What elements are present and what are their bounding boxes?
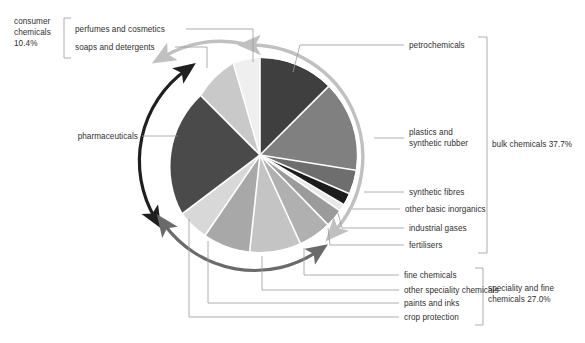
speciality-line1: speciality and fine: [488, 283, 554, 294]
label-perfumes-and-cosmetics: perfumes and cosmetics: [75, 24, 165, 35]
label-fertilisers: fertilisers: [409, 240, 442, 251]
chart-figure: consumer chemicals 10.4% perfumes and co…: [0, 0, 585, 343]
label-pharmaceuticals: pharmaceuticals: [46, 131, 138, 142]
label-industrial-gases: industrial gases: [409, 223, 467, 234]
label-other-basic-inorganics: other basic inorganics: [405, 204, 486, 215]
label-plastics-synthetic-rubber: plastics and synthetic rubber: [409, 127, 468, 149]
consumer-chemicals-line1: consumer: [14, 16, 66, 27]
speciality-line2: chemicals 27.0%: [488, 294, 554, 305]
plastics-line2: synthetic rubber: [409, 138, 468, 149]
label-soaps-and-detergents: soaps and detergents: [75, 42, 155, 53]
bracket-bulk-chemicals: [478, 37, 487, 253]
leader-other-speciality: [262, 256, 399, 290]
consumer-chemicals-line2: chemicals: [14, 27, 66, 38]
label-consumer-chemicals: consumer chemicals 10.4%: [14, 16, 66, 49]
label-synthetic-fibres: synthetic fibres: [409, 187, 464, 198]
plastics-line1: plastics and: [409, 127, 468, 138]
label-paints-and-inks: paints and inks: [404, 298, 459, 309]
bracket-speciality-chemicals: [475, 268, 483, 325]
label-other-speciality-chemicals: other speciality chemicals: [404, 285, 499, 296]
label-crop-protection: crop protection: [404, 312, 459, 323]
consumer-chemicals-line3: 10.4%: [14, 38, 66, 49]
label-bulk-chemicals-group: bulk chemicals 37.7%: [492, 139, 572, 150]
label-speciality-fine-chemicals-group: speciality and fine chemicals 27.0%: [488, 283, 554, 305]
leader-fertilisers: [328, 228, 404, 245]
label-petrochemicals: petrochemicals: [409, 40, 465, 51]
label-fine-chemicals: fine chemicals: [404, 270, 457, 281]
